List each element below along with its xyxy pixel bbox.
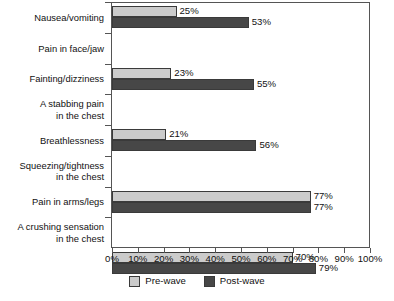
x-axis-tick-label: 0% [105,253,119,265]
y-axis-tick [105,187,111,188]
category-label: A crushing sensation in the chest [0,221,104,243]
category-label: Fainting/dizziness [0,73,104,84]
legend-label-post-wave: Post-wave [220,275,265,287]
category-label: Pain in face/jaw [0,43,104,54]
y-axis-tick [105,2,111,3]
category-group: Squeezing/tightness in the chest80%87% [0,156,394,187]
x-axis-tick-label: 20% [154,253,173,265]
y-axis-tick [105,125,111,126]
bar [112,6,177,17]
category-label: A stabbing pain in the chest [0,98,104,120]
x-axis-tick-labels: 0%10%20%30%40%50%60%70%80%90%100% [0,253,394,267]
bar-value-label: 25% [177,5,199,17]
category-group: A crushing sensation in the chest82%93% [0,217,394,248]
y-axis-tick [105,33,111,34]
category-label: Breathlessness [0,135,104,146]
y-axis-tick [105,217,111,218]
y-axis-tick [105,94,111,95]
bar [112,17,249,28]
category-group: Breathlessness70%79% [0,125,394,156]
legend-item-pre-wave: Pre-wave [129,275,186,287]
x-axis-tick-label: 10% [128,253,147,265]
chart-legend: Pre-wave Post-wave [0,275,394,287]
category-group: Pain in arms/legs87%88% [0,187,394,218]
x-axis-tick-label: 90% [335,253,354,265]
bar-value-label: 53% [249,16,271,28]
legend-swatch-icon-post-wave [204,276,215,287]
category-rows: Nausea/vomiting25%53%Pain in face/jaw23%… [0,2,394,248]
category-group: Fainting/dizziness21%56% [0,64,394,95]
x-axis-tick-label: 100% [358,253,383,265]
category-group: A stabbing pain in the chest77%77% [0,94,394,125]
x-axis-tick-label: 50% [231,253,250,265]
category-group: Nausea/vomiting25%53% [0,2,394,33]
category-group: Pain in face/jaw23%55% [0,33,394,64]
legend-swatch-icon-pre-wave [129,276,140,287]
y-axis-tick [105,156,111,157]
category-label: Nausea/vomiting [0,12,104,23]
x-axis-tick-label: 80% [309,253,328,265]
category-label: Squeezing/tightness in the chest [0,160,104,182]
bar-chart: Nausea/vomiting25%53%Pain in face/jaw23%… [0,0,394,301]
x-axis-tick-label: 40% [206,253,225,265]
x-axis-tick-label: 70% [283,253,302,265]
y-axis-tick [105,64,111,65]
x-axis-tick-label: 60% [257,253,276,265]
legend-label-pre-wave: Pre-wave [145,275,186,287]
bar-group-post-wave: 53% [112,17,370,28]
bar-group-pre-wave: 25% [112,6,370,17]
x-axis-tick-label: 30% [180,253,199,265]
legend-item-post-wave: Post-wave [204,275,265,287]
category-label: Pain in arms/legs [0,196,104,207]
